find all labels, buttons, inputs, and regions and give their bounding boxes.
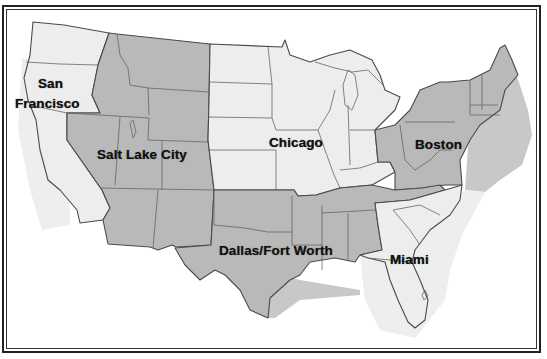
us-region-map — [0, 0, 547, 359]
label-dallas-fort-worth: Dallas/Fort Worth — [219, 244, 333, 258]
region-chicago — [208, 40, 400, 196]
label-chicago: Chicago — [269, 136, 323, 150]
label-boston: Boston — [415, 138, 462, 152]
label-miami: Miami — [390, 253, 429, 267]
label-salt-lake-city: Salt Lake City — [97, 148, 187, 162]
label-san-francisco-line1: San — [38, 77, 63, 91]
label-san-francisco-line2: Francisco — [15, 97, 80, 111]
